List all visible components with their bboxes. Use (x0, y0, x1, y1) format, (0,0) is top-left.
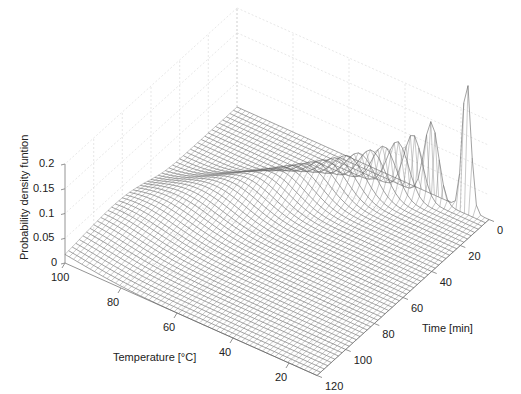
y-tick-label: 20 (468, 250, 480, 262)
y-tick-label: 120 (325, 380, 343, 392)
y-tick-label: 100 (354, 354, 372, 366)
y-tick-label: 80 (382, 328, 394, 340)
surface-plot (0, 0, 521, 394)
y-tick-label: 60 (411, 302, 423, 314)
z-tick-label: 0.2 (39, 157, 54, 169)
z-tick-label: 0.1 (39, 207, 54, 219)
x-tick-label: 20 (275, 371, 287, 383)
z-tick-label: 0.15 (33, 182, 54, 194)
y-tick-label: 40 (440, 276, 452, 288)
y-axis-label: Time [min] (422, 322, 473, 334)
x-axis-label: Temperature [°C] (113, 351, 196, 363)
y-tick-label: 0 (497, 224, 503, 236)
x-tick-label: 80 (107, 296, 119, 308)
x-tick-label: 100 (51, 271, 69, 283)
z-tick-label: 0.05 (33, 231, 54, 243)
x-tick-label: 60 (163, 321, 175, 333)
x-tick-label: 40 (219, 346, 231, 358)
z-tick-label: 0 (51, 256, 57, 268)
z-axis-label: Probability density funtion (18, 135, 30, 260)
